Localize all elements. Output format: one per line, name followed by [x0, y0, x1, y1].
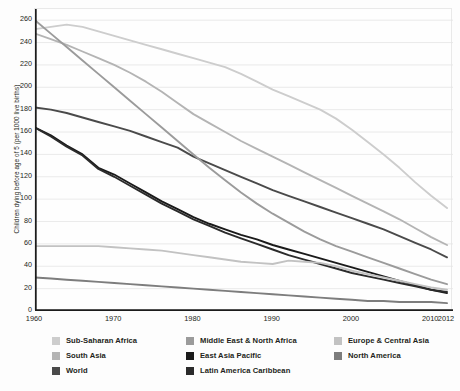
- series-line: [35, 246, 447, 290]
- series-line: [35, 277, 447, 303]
- legend-item-label: Latin America Caribbean: [200, 366, 290, 375]
- y-axis-tick-label: 40: [8, 261, 32, 269]
- y-axis-tick-label: 120: [8, 172, 32, 180]
- series-line: [35, 128, 447, 294]
- legend-item[interactable]: North America: [334, 349, 429, 362]
- y-axis-tick-label: 200: [8, 82, 32, 90]
- x-axis-tick-label: 1980: [184, 314, 200, 323]
- plot-area: [34, 8, 452, 310]
- legend-swatch-icon: [186, 337, 194, 345]
- plot-svg: [35, 9, 453, 311]
- legend-item-label: South Asia: [66, 351, 106, 360]
- legend-item-label: World: [66, 366, 88, 375]
- legend-item-label: Europe & Central Asia: [348, 336, 429, 345]
- legend-item-label: East Asia Pacific: [200, 351, 261, 360]
- legend-item-label: North America: [348, 351, 401, 360]
- y-axis-tick-label: 180: [8, 105, 32, 113]
- legend-item[interactable]: Europe & Central Asia: [334, 334, 429, 347]
- legend-item[interactable]: Middle East & North Africa: [186, 334, 297, 347]
- series-line: [35, 128, 447, 292]
- legend-item[interactable]: South Asia: [52, 349, 137, 362]
- series-line: [35, 25, 447, 208]
- legend-swatch-icon: [334, 352, 342, 360]
- legend-column: Europe & Central AsiaNorth America: [334, 334, 429, 364]
- y-axis-tick-label: 20: [8, 284, 32, 292]
- legend-item-label: Middle East & North Africa: [200, 336, 297, 345]
- x-axis-tick-label: 2010: [422, 314, 438, 323]
- y-axis-tick-label: 100: [8, 194, 32, 202]
- legend-swatch-icon: [186, 352, 194, 360]
- y-axis-tick-label: 80: [8, 217, 32, 225]
- legend-column: Sub-Saharan AfricaSouth AsiaWorld: [52, 334, 137, 379]
- x-axis-tick-label: 1960: [26, 314, 42, 323]
- y-axis-tick-label: 60: [8, 239, 32, 247]
- y-axis-tick-label: 260: [8, 15, 32, 23]
- y-axis-tick-label: 140: [8, 149, 32, 157]
- legend-swatch-icon: [52, 352, 60, 360]
- legend-swatch-icon: [334, 337, 342, 345]
- legend-item[interactable]: World: [52, 364, 137, 377]
- y-axis-tick-label: 240: [8, 38, 32, 46]
- legend-swatch-icon: [52, 337, 60, 345]
- y-axis-tick-label: 0: [8, 306, 32, 314]
- series-line: [35, 20, 447, 284]
- y-axis-tick-labels: 020406080100120140160180200220240260: [4, 8, 32, 310]
- x-axis-tick-label: 2000: [343, 314, 359, 323]
- legend-item[interactable]: East Asia Pacific: [186, 349, 297, 362]
- y-axis-tick-label: 220: [8, 60, 32, 68]
- chart-legend: Sub-Saharan AfricaSouth AsiaWorldMiddle …: [52, 334, 452, 382]
- x-axis-tick-label: 1970: [105, 314, 121, 323]
- legend-swatch-icon: [186, 367, 194, 375]
- x-axis-tick-label: 2012: [438, 314, 454, 323]
- legend-swatch-icon: [52, 367, 60, 375]
- legend-item-label: Sub-Saharan Africa: [66, 336, 137, 345]
- legend-item[interactable]: Sub-Saharan Africa: [52, 334, 137, 347]
- x-axis-tick-label: 1990: [263, 314, 279, 323]
- chart-figure: Children dying before age of 5 (per 1000…: [0, 0, 460, 391]
- legend-item[interactable]: Latin America Caribbean: [186, 364, 297, 377]
- legend-column: Middle East & North AfricaEast Asia Paci…: [186, 334, 297, 379]
- x-axis-tick-labels: 1960197019801990200020102012: [34, 314, 452, 328]
- y-axis-tick-label: 160: [8, 127, 32, 135]
